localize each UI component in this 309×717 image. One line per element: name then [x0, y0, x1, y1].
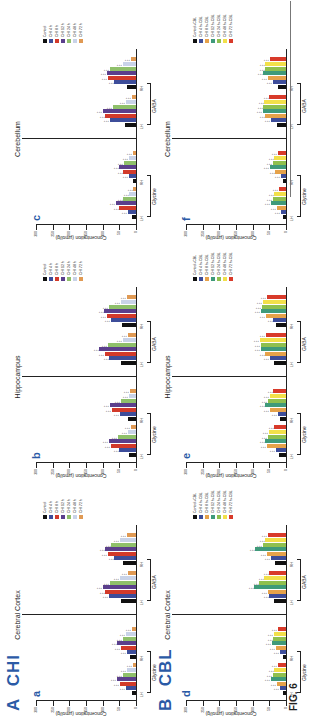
y-tick: [203, 463, 204, 468]
significance-marker: * * *: [114, 412, 119, 416]
bar: [275, 170, 286, 174]
significance-marker: * * *: [261, 552, 266, 556]
legend-label: CHI 4 h: [49, 263, 53, 275]
significance-marker: * * *: [275, 210, 280, 214]
legend-swatch: [211, 39, 215, 43]
legend-swatch: [193, 39, 197, 43]
y-tick: [253, 225, 254, 230]
bar: [268, 590, 286, 594]
legend-item: CHI 72 h+CBL: [228, 5, 234, 43]
bar: [280, 650, 286, 654]
bar: [271, 201, 286, 205]
bar: [127, 295, 136, 299]
bar: [108, 76, 136, 80]
significance-marker: * * *: [271, 682, 276, 686]
bar: [129, 174, 136, 178]
bar: [123, 338, 136, 342]
hemisphere-label: RH: [290, 324, 294, 329]
significance-marker: * * *: [118, 161, 123, 165]
legend-label: CHI 8 h: [55, 263, 59, 275]
significance-marker: * * *: [264, 165, 269, 169]
amino-acid-label: GABA: [301, 337, 307, 351]
bar: [107, 314, 136, 318]
y-tick: [53, 701, 54, 706]
bar: [269, 430, 286, 434]
hemisphere-label: LH: [290, 363, 294, 367]
amino-acid-label: Glycine: [301, 188, 307, 205]
legend-label: CHI 4 h: [49, 25, 53, 37]
bar: [278, 85, 286, 89]
legend-label: CHI 12 h: [61, 23, 65, 37]
y-tick-label: 300: [184, 469, 188, 479]
bar: [118, 435, 136, 439]
bar: [108, 552, 136, 556]
bar: [132, 627, 136, 631]
hemisphere-label: LH: [140, 125, 144, 129]
bar: [283, 655, 286, 659]
bar: [121, 399, 136, 403]
bar: [105, 547, 136, 551]
significance-marker: * * *: [257, 109, 262, 113]
significance-marker: * * *: [123, 174, 128, 178]
significance-marker: * * *: [122, 333, 127, 337]
bar: [127, 668, 136, 672]
significance-marker: * * *: [115, 399, 120, 403]
hemisphere-label: RH: [290, 418, 294, 423]
bar: [121, 361, 136, 365]
y-axis-title: Concentration (µmol/g): [196, 473, 266, 479]
hemisphere-label: LH: [140, 601, 144, 605]
significance-marker: * * *: [112, 641, 117, 645]
legend-swatch: [79, 39, 83, 43]
y-axis-title: Concentration (µmol/g): [46, 235, 116, 241]
y-tick: [186, 225, 187, 230]
significance-marker: * * *: [274, 686, 279, 690]
legend-label: CHI 12 h+CBL: [211, 490, 215, 513]
bar: [99, 347, 136, 351]
bar: [271, 677, 286, 681]
legend-swatch: [61, 277, 65, 281]
significance-marker: * * *: [260, 352, 265, 356]
y-tick-label: 300: [184, 707, 188, 717]
group-divider: [22, 376, 136, 377]
significance-marker: * * *: [126, 95, 131, 99]
legend-label: CHI 72 h+CBL: [229, 252, 233, 275]
significance-marker: * * *: [270, 170, 275, 174]
bar: [265, 67, 286, 71]
bar: [126, 686, 136, 690]
hemisphere-label: RH: [140, 324, 144, 329]
bar: [133, 663, 136, 667]
y-tick: [36, 463, 37, 468]
significance-marker: * * *: [109, 80, 114, 84]
significance-marker: * * *: [250, 547, 255, 551]
bar: [274, 425, 286, 429]
bar: [280, 417, 286, 421]
significance-marker: * * *: [126, 627, 131, 631]
legend-swatch: [55, 277, 59, 281]
hemisphere-label: RH: [140, 418, 144, 423]
legend-swatch: [223, 515, 227, 519]
x-axis: [136, 287, 137, 463]
bar: [265, 403, 286, 407]
y-tick: [136, 463, 137, 468]
legend-item: CHI 72 h: [78, 5, 84, 43]
legend-label: Control: [43, 26, 47, 37]
bar: [121, 300, 136, 304]
bar: [122, 323, 136, 327]
bar: [270, 165, 286, 169]
legend-label: CHI 24 h: [67, 23, 71, 37]
legend-label: CHI 12 h+CBL: [211, 14, 215, 37]
significance-marker: * * *: [272, 151, 277, 155]
chart-panel-a: a050100150200250300Concentration (µmol/g…: [28, 487, 158, 715]
y-axis-title: Concentration (µmol/g): [46, 711, 116, 717]
amino-acid-label: GABA: [151, 99, 157, 113]
y-tick: [219, 701, 220, 706]
bar: [130, 655, 136, 659]
bar: [281, 210, 286, 214]
bar: [114, 556, 136, 560]
bar: [263, 300, 286, 304]
legend-swatch: [193, 515, 197, 519]
bar: [274, 156, 286, 160]
significance-marker: * * *: [114, 165, 119, 169]
significance-marker: * * *: [103, 439, 108, 443]
bar: [119, 206, 136, 210]
